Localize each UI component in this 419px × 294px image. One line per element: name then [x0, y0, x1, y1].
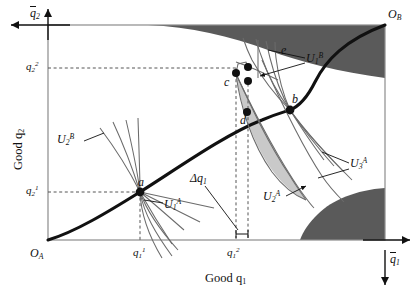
delta-q1-bracket [236, 230, 248, 238]
point-label-c: c [224, 76, 229, 88]
origin-A-label: OA [30, 247, 43, 259]
data-points [136, 63, 295, 196]
origin-B-label: OB [388, 8, 401, 20]
leader-U3A-b [318, 169, 349, 178]
point-label-b: b [292, 93, 298, 105]
point-e [244, 63, 252, 71]
dark-region-bottom-right [300, 188, 385, 240]
curve-b-7 [290, 110, 344, 172]
annotation-delta-q1: Δq1 [190, 172, 207, 184]
y-axis-title: Good q2 [12, 129, 25, 170]
curve-label-U2A: U2A [263, 190, 280, 202]
figure-canvas [0, 0, 419, 294]
curve-label-U1B: U1B [306, 52, 323, 64]
leader-delta-q1 [205, 186, 238, 230]
curve-b-8 [290, 110, 352, 180]
point-e2 [244, 77, 252, 85]
x-tick-q1-1: q11 [133, 247, 146, 258]
x-max-label: q1 [390, 252, 400, 265]
curve-a-1 [100, 128, 172, 244]
point-b [286, 106, 295, 115]
point-c [232, 69, 240, 77]
x-tick-q1-2: q12 [227, 247, 240, 258]
curve-label-U2B: U2B [57, 133, 74, 145]
indifference-curves-a [100, 118, 214, 258]
y-tick-q2-1: q21 [26, 185, 39, 196]
curve-a-2 [113, 122, 178, 250]
edgeworth-box-figure: OA OB q2 q1 Good q2 Good q1 q22 q21 q11 … [0, 0, 419, 294]
guide-lines [48, 68, 248, 240]
x-axis-title: Good q1 [205, 272, 246, 285]
point-label-e: e [281, 44, 286, 56]
leader-U2B [84, 133, 104, 141]
curve-label-U1A: U1A [164, 198, 181, 210]
curve-label-U3A: U3A [350, 157, 367, 169]
shaded-regions [148, 25, 385, 240]
y-tick-q2-2: q22 [26, 61, 39, 72]
point-label-d: d [240, 114, 246, 126]
y-max-label: q2 [30, 6, 40, 19]
point-label-a: a [138, 176, 144, 188]
